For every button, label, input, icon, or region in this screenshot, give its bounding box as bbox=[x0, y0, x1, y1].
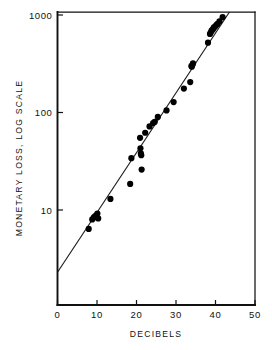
y-tick-label: 100 bbox=[35, 107, 53, 118]
data-point bbox=[181, 85, 187, 91]
x-tick-label: 30 bbox=[170, 309, 182, 320]
y-tick-label: 1000 bbox=[29, 10, 53, 21]
data-point bbox=[205, 40, 211, 46]
data-point bbox=[139, 166, 145, 172]
data-point bbox=[171, 99, 177, 105]
data-point bbox=[127, 181, 133, 187]
y-tick-label: 10 bbox=[41, 205, 53, 216]
data-point bbox=[163, 107, 169, 113]
data-point bbox=[138, 152, 144, 158]
x-axis-label: DECIBELS bbox=[130, 329, 183, 339]
data-point bbox=[187, 79, 193, 85]
data-point bbox=[137, 135, 143, 141]
data-point bbox=[95, 215, 101, 221]
data-point bbox=[142, 130, 148, 136]
plot-background bbox=[0, 0, 272, 350]
x-tick-label: 0 bbox=[55, 309, 61, 320]
scatter-plot: 01020304050 101001000 DECIBELS MONETARY … bbox=[0, 0, 272, 350]
x-tick-label: 40 bbox=[210, 309, 222, 320]
chart-figure: 01020304050 101001000 DECIBELS MONETARY … bbox=[0, 0, 272, 350]
data-point bbox=[190, 60, 196, 66]
x-tick-label: 20 bbox=[131, 309, 143, 320]
data-point bbox=[128, 155, 134, 161]
data-point bbox=[155, 114, 161, 120]
x-tick-label: 10 bbox=[91, 309, 103, 320]
data-point bbox=[86, 226, 92, 232]
y-axis-label: MONETARY LOSS, LOG SCALE bbox=[14, 80, 24, 237]
data-point bbox=[107, 196, 113, 202]
x-tick-label: 50 bbox=[249, 309, 261, 320]
data-point bbox=[220, 14, 226, 20]
